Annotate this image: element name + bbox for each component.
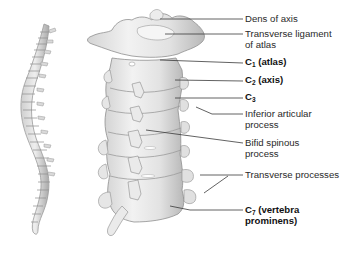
label-transverse-ligament-of-atlas: Transverse ligament of atlas xyxy=(245,29,332,50)
vertebral-column-inset xyxy=(21,24,56,234)
label-c2-axis: C2 (axis) xyxy=(245,75,283,86)
label-inferior-articular-process: Inferior articular process xyxy=(245,109,312,130)
label-c1-atlas: C1 (atlas) xyxy=(245,57,287,68)
label-c7-vertebra-prominens: C7 (vertebra prominens) xyxy=(245,205,299,226)
cervical-vertebrae xyxy=(88,10,205,236)
label-dens-of-axis: Dens of axis xyxy=(245,14,298,25)
label-transverse-processes: Transverse processes xyxy=(245,170,339,181)
label-bifid-spinous-process: Bifid spinous process xyxy=(245,138,299,159)
cervical-spine-diagram: Dens of axis Transverse ligament of atla… xyxy=(0,0,359,253)
label-c3: C3 xyxy=(245,92,256,103)
